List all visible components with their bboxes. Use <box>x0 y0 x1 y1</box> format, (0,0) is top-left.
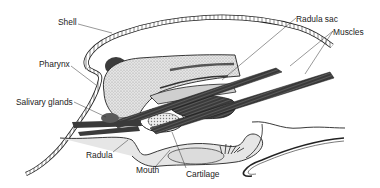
anatomy-illustration <box>0 0 380 188</box>
label-shell: Shell <box>58 18 77 26</box>
label-salivary-glands: Salivary glands <box>16 98 73 106</box>
label-pharynx: Pharynx <box>39 60 70 68</box>
salivary-gland <box>101 113 119 123</box>
label-muscles: Muscles <box>333 28 364 36</box>
label-radula-sac: Radula sac <box>296 15 338 23</box>
label-radula: Radula <box>86 151 113 159</box>
label-mouth: Mouth <box>136 166 159 174</box>
label-cartilage: Cartilage <box>186 170 220 178</box>
mollusc-feeding-diagram: Shell Pharynx Salivary glands Radula Mou… <box>0 0 380 188</box>
